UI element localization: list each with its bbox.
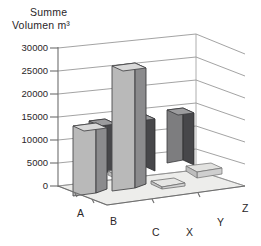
y-tick-10000: 10000 — [0, 134, 48, 145]
y-tick-25000: 25000 — [0, 65, 48, 76]
y-tick-0: 0 — [0, 180, 48, 191]
bar-front-A — [73, 123, 107, 196]
bar-back-C — [167, 108, 194, 165]
y-tick-15000: 15000 — [0, 111, 48, 122]
bar-front-B — [112, 63, 146, 191]
z-cat-label-y: Y — [217, 216, 224, 228]
y-tick-5000: 5000 — [0, 157, 48, 168]
x-cat-label-c: C — [152, 226, 160, 238]
z-cat-label-z: Z — [242, 202, 248, 214]
y-tick-20000: 20000 — [0, 88, 48, 99]
y-tick-30000: 30000 — [0, 42, 48, 53]
chart-canvas — [0, 0, 261, 246]
chart-figure: Summe Volumen m³ — [0, 0, 261, 246]
x-cat-label-b: B — [110, 215, 117, 227]
x-cat-label-a: A — [77, 207, 84, 219]
z-cat-label-x: X — [186, 226, 193, 238]
